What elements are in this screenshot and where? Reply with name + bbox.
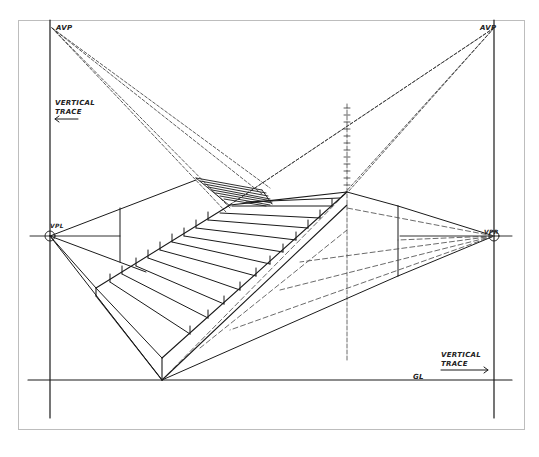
vertical-trace-right-label-2: TRACE [441, 360, 468, 368]
arrow-left-icon [55, 116, 78, 122]
stair-stringers [96, 192, 347, 380]
vertical-trace-left-label-2: TRACE [55, 108, 82, 116]
vpl-label: VPL [50, 222, 64, 230]
vertical-trace-right-label-1: VERTICAL [441, 351, 481, 359]
avp-construction-lines [52, 28, 494, 212]
ground-line-label: GL [413, 373, 424, 381]
vertical-trace-left-label-1: VERTICAL [55, 99, 95, 107]
vpr-label: VPR [484, 228, 499, 236]
stair-treads [96, 198, 340, 358]
perspective-drawing [0, 0, 539, 457]
avp-right-label: AVP [480, 24, 496, 32]
avp-left-label: AVP [56, 24, 72, 32]
left-wall [50, 180, 196, 380]
